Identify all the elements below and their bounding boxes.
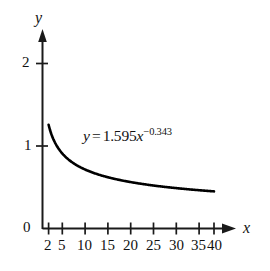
equation-annotation: y=1.595x−0.343 xyxy=(83,127,172,144)
x-tick-label-30: 30 xyxy=(169,238,184,253)
equation-equals: = xyxy=(90,127,103,144)
y-tick-label-2: 2 xyxy=(22,55,30,70)
arrow-up-icon xyxy=(38,29,47,42)
x-tick-label-40: 40 xyxy=(207,238,222,253)
x-tick-label-5: 5 xyxy=(58,238,66,253)
equation-lhs: y xyxy=(83,127,90,144)
x-tick-label-2: 2 xyxy=(44,238,52,253)
equation-coefficient: 1.595 xyxy=(103,127,137,144)
y-tick-label-0: 0 xyxy=(23,220,31,235)
x-axis-label: x xyxy=(243,220,250,236)
y-axis-label: y xyxy=(35,10,42,26)
x-tick-label-10: 10 xyxy=(77,238,92,253)
x-tick-label-35: 35 xyxy=(191,238,206,253)
x-tick-label-20: 20 xyxy=(123,238,138,253)
power-function-figure: 2 1 0 2 5 10 15 20 25 30 35 40 y x y=1.5… xyxy=(0,0,270,271)
x-tick-label-25: 25 xyxy=(146,238,161,253)
x-tick-label-15: 15 xyxy=(100,238,115,253)
arrow-right-icon xyxy=(222,224,236,234)
equation-exponent: −0.343 xyxy=(143,126,171,137)
y-tick-label-1: 1 xyxy=(24,138,32,153)
